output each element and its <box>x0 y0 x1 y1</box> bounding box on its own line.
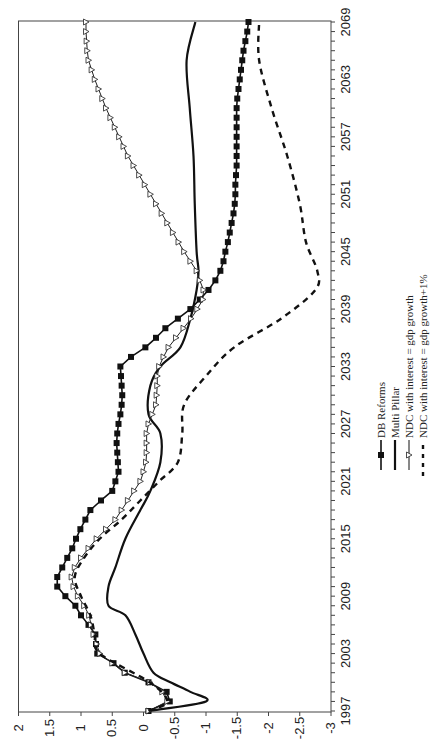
square-marker <box>59 564 65 570</box>
legend-item: NDC with interest = gdp growth <box>403 295 415 470</box>
value-tick-label: -1.5 <box>229 717 244 739</box>
square-marker <box>246 19 252 25</box>
line-chart: 21.510.50-0.5-1-1.5-2-2.5-3 199720032009… <box>0 0 441 746</box>
square-marker <box>117 364 123 370</box>
square-marker <box>119 402 125 408</box>
year-tick-label: 2057 <box>338 122 353 151</box>
square-marker <box>116 421 122 427</box>
square-marker <box>232 182 238 188</box>
square-marker <box>153 335 159 341</box>
square-marker <box>238 67 244 73</box>
value-tick-label: -3 <box>323 722 338 734</box>
square-marker <box>234 153 240 159</box>
square-marker <box>234 105 240 111</box>
square-marker <box>98 497 104 503</box>
square-marker <box>232 191 238 197</box>
year-tick-label: 2009 <box>338 582 353 611</box>
square-marker <box>212 277 218 283</box>
square-marker <box>116 469 122 475</box>
square-marker <box>114 450 120 456</box>
square-marker <box>225 239 231 245</box>
year-tick-label: 2021 <box>338 467 353 496</box>
square-marker <box>112 478 118 484</box>
year-tick-label: 2015 <box>338 524 353 553</box>
year-tick-label: 2063 <box>338 65 353 94</box>
square-marker <box>233 172 239 178</box>
legend-item: DB Reforms <box>375 382 387 470</box>
square-marker <box>117 411 123 417</box>
square-marker <box>234 96 240 102</box>
square-marker <box>82 517 88 523</box>
year-tick-label: 2027 <box>338 409 353 438</box>
value-tick-label: -2 <box>261 722 276 734</box>
value-axis: 21.510.50-0.5-1-1.5-2-2.5-3 <box>11 712 339 739</box>
square-marker <box>69 545 75 551</box>
square-marker <box>222 249 228 255</box>
square-marker <box>64 555 70 561</box>
year-tick-label: 2045 <box>338 237 353 266</box>
square-marker <box>234 143 240 149</box>
square-marker <box>87 507 93 513</box>
year-tick-label: 2003 <box>338 639 353 668</box>
square-marker <box>119 392 125 398</box>
square-marker <box>114 440 120 446</box>
square-marker <box>221 258 227 264</box>
legend-label: Multi Pillar <box>389 387 401 438</box>
square-marker <box>236 86 242 92</box>
value-tick-label: 0 <box>136 724 151 731</box>
value-tick-label: 0.5 <box>104 719 119 737</box>
value-tick-label: -2.5 <box>292 717 307 739</box>
year-tick-label: 1997 <box>338 697 353 726</box>
legend-label: NDC with interest = gdp growth <box>403 295 415 438</box>
square-marker <box>175 316 181 322</box>
square-marker <box>227 230 233 236</box>
legend-item: NDC with interest = gdp growth+1% <box>417 274 429 476</box>
square-marker <box>242 38 248 44</box>
legend: DB ReformsMulti PillarNDC with interest … <box>375 274 429 476</box>
square-marker <box>54 584 60 590</box>
square-marker <box>217 268 223 274</box>
square-marker <box>109 488 115 494</box>
square-marker <box>237 76 243 82</box>
legend-item: Multi Pillar <box>389 387 401 470</box>
year-tick-label: 2069 <box>338 8 353 37</box>
square-marker <box>234 163 240 169</box>
year-axis: 1997200320092015202120272033203920452051… <box>331 8 353 726</box>
year-tick-label: 2039 <box>338 295 353 324</box>
value-tick-label: 2 <box>11 724 26 731</box>
square-marker <box>244 29 250 35</box>
square-marker <box>234 124 240 130</box>
square-marker <box>232 201 238 207</box>
value-tick-label: 1 <box>73 724 88 731</box>
square-marker <box>128 354 134 360</box>
year-tick-label: 2033 <box>338 352 353 381</box>
square-marker <box>115 459 121 465</box>
square-marker <box>54 574 60 580</box>
legend-label: NDC with interest = gdp growth+1% <box>417 274 429 438</box>
square-marker <box>378 452 384 458</box>
square-marker <box>118 373 124 379</box>
square-marker <box>78 612 84 618</box>
square-marker <box>229 220 235 226</box>
square-marker <box>114 430 120 436</box>
square-marker <box>142 344 148 350</box>
square-marker <box>62 593 68 599</box>
value-tick-label: -0.5 <box>167 717 182 739</box>
value-tick-label: 1.5 <box>42 719 57 737</box>
value-tick-label: -1 <box>198 722 213 734</box>
square-marker <box>73 536 79 542</box>
plot-area <box>19 21 332 712</box>
square-marker <box>241 48 247 54</box>
square-marker <box>234 134 240 140</box>
square-marker <box>234 115 240 121</box>
square-marker <box>162 325 168 331</box>
year-tick-label: 2051 <box>338 180 353 209</box>
legend-label: DB Reforms <box>375 382 387 438</box>
square-marker <box>77 526 83 532</box>
square-marker <box>72 603 78 609</box>
square-marker <box>239 57 245 63</box>
square-marker <box>231 210 237 216</box>
square-marker <box>119 383 125 389</box>
